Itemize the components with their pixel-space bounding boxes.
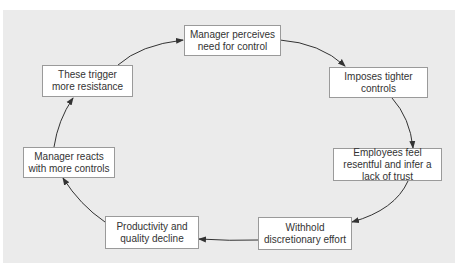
node-imposes-controls: Imposes tighter controls: [329, 67, 428, 98]
node-manager-reacts: Manager reacts with more controls: [23, 147, 115, 178]
arrow-n5-n6: [63, 178, 105, 222]
node-trigger-resistance: These trigger more resistance: [42, 65, 133, 97]
node-employees-resentful: Employees feel resentful and infer a lac…: [333, 148, 442, 181]
node-productivity-decline: Productivity and quality decline: [105, 216, 199, 249]
arrow-n1-n2: [280, 40, 345, 66]
arrow-n3-n4: [352, 181, 408, 222]
node-manager-perceives: Manager perceives need for control: [184, 25, 281, 56]
arrow-n6-n7: [54, 98, 73, 147]
arrow-n2-n3: [392, 98, 413, 148]
arrow-n7-n1: [118, 40, 183, 65]
node-withhold-effort: Withhold discretionary effort: [258, 217, 352, 250]
arrow-n4-n5: [199, 239, 258, 240]
